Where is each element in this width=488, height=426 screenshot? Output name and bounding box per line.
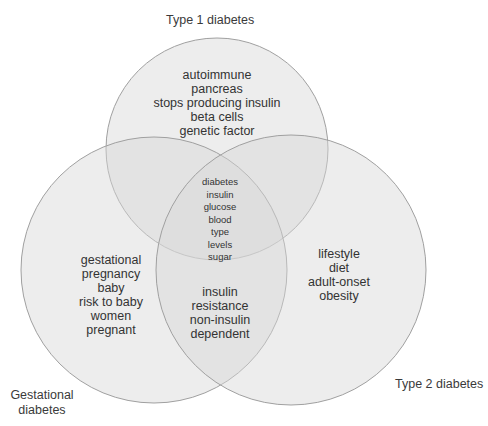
region-item: pregnancy	[66, 267, 156, 281]
region-item: pancreas	[147, 82, 287, 96]
region-item: dependent	[180, 327, 260, 341]
region-item: baby	[66, 281, 156, 295]
set-label-type2: Type 2 diabetes	[395, 377, 483, 392]
region-item: risk to baby	[66, 295, 156, 309]
region-item: stops producing insulin	[147, 96, 287, 110]
region-item: diabetes	[190, 176, 250, 189]
region-item: levels	[190, 239, 250, 252]
region-item: obesity	[299, 289, 379, 303]
region-item: non-insulin	[180, 313, 260, 327]
set-label-type1: Type 1 diabetes	[166, 13, 254, 28]
region-gestational-only: gestational pregnancy baby risk to baby …	[66, 253, 156, 337]
region-item: gestational	[66, 253, 156, 267]
region-item: diet	[299, 261, 379, 275]
region-item: beta cells	[147, 110, 287, 124]
region-type2-only: lifestyle diet adult-onset obesity	[299, 247, 379, 303]
set-label-gestational: Gestational diabetes	[8, 388, 76, 418]
set-label-gestational-line2: diabetes	[8, 403, 76, 418]
region-item: type	[190, 226, 250, 239]
region-item: women	[66, 309, 156, 323]
region-item: blood	[190, 214, 250, 227]
region-gestational-and-type2: insulin resistance non-insulin dependent	[180, 285, 260, 341]
set-label-gestational-line1: Gestational	[8, 388, 76, 403]
region-item: sugar	[190, 251, 250, 264]
region-type1-only: autoimmune pancreas stops producing insu…	[147, 68, 287, 138]
region-item: lifestyle	[299, 247, 379, 261]
region-item: autoimmune	[147, 68, 287, 82]
region-item: genetic factor	[147, 124, 287, 138]
region-item: adult-onset	[299, 275, 379, 289]
region-item: insulin	[180, 285, 260, 299]
region-item: pregnant	[66, 323, 156, 337]
region-item: resistance	[180, 299, 260, 313]
region-item: insulin	[190, 189, 250, 202]
region-item: glucose	[190, 201, 250, 214]
region-all-three: diabetes insulin glucose blood type leve…	[190, 176, 250, 264]
